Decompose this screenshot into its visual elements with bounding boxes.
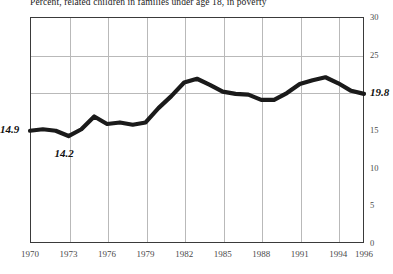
x-axis-tick-label: 1976	[98, 249, 116, 259]
x-axis-tick-label: 1994	[329, 249, 347, 259]
y-axis-tick-label: 10	[370, 163, 379, 173]
y-axis-tick-label: 15	[370, 125, 379, 135]
poverty-rate-line-series	[30, 17, 364, 243]
value-label-14-2: 14.2	[55, 147, 74, 159]
y-axis-tick-label: 5	[370, 200, 374, 210]
y-axis-tick-label: 30	[370, 12, 379, 22]
x-axis-tick-label: 1996	[355, 249, 373, 259]
x-axis-tick-label: 1973	[60, 249, 78, 259]
x-axis-tick-label: 1970	[21, 249, 39, 259]
y-axis-tick-label: 25	[370, 50, 379, 60]
y-axis-tick-label: 0	[370, 238, 374, 248]
x-axis-tick-label: 1982	[175, 249, 193, 259]
x-axis-tick-label: 1979	[137, 249, 155, 259]
x-axis-tick-label: 1988	[252, 249, 270, 259]
chart-title: Percent, related children in families un…	[30, 0, 267, 7]
x-axis-tick-label: 1985	[214, 249, 232, 259]
value-label-19-8: 19.8	[370, 86, 389, 98]
x-axis-tick-label: 1991	[291, 249, 309, 259]
series-polyline	[30, 77, 364, 136]
chart-page: Percent, related children in families un…	[0, 0, 393, 274]
value-label-14-9: 14.9	[0, 123, 19, 135]
